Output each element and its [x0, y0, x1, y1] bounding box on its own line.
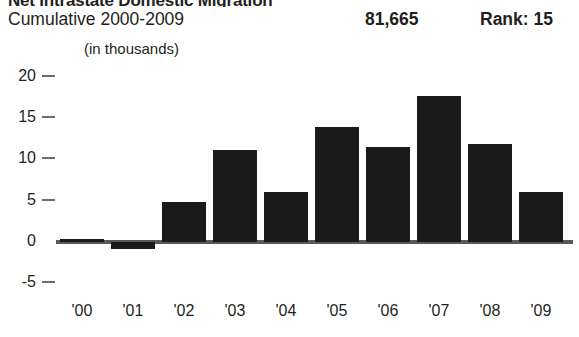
- bar-2004: [264, 192, 308, 242]
- bar-chart: 20 15 10 5 0 -5 '00 '01 '02 '03 '04 '05 …: [0, 0, 579, 337]
- x-axis-tick-2007: '07: [413, 302, 465, 320]
- x-axis-tick-2008: '08: [464, 302, 516, 320]
- y-axis-tick-label: 15: [0, 108, 36, 126]
- y-axis-tick-label: 5: [0, 191, 36, 209]
- y-axis-tick-label: -5: [0, 273, 36, 291]
- bar-2007: [417, 96, 461, 242]
- y-axis-tick-label: 10: [0, 149, 36, 167]
- y-axis-tick-mark: [42, 281, 55, 283]
- y-axis-tick-mark: [42, 75, 55, 77]
- y-axis-tick-mark: [42, 116, 55, 118]
- x-axis-tick-2005: '05: [311, 302, 363, 320]
- bar-2001: [111, 242, 155, 249]
- x-axis-tick-2000: '00: [56, 302, 108, 320]
- x-axis-tick-2003: '03: [209, 302, 261, 320]
- y-axis-tick-mark: [42, 157, 55, 159]
- bar-2003: [213, 150, 257, 242]
- y-axis-tick-label: 0: [0, 232, 36, 250]
- bar-2002: [162, 202, 206, 242]
- y-axis-tick-label: 20: [0, 67, 36, 85]
- bar-2005: [315, 127, 359, 242]
- y-axis-tick-mark: [42, 199, 55, 201]
- bar-2009: [519, 192, 563, 242]
- x-axis-tick-2006: '06: [362, 302, 414, 320]
- x-axis-tick-2004: '04: [260, 302, 312, 320]
- x-axis-tick-2001: '01: [107, 302, 159, 320]
- x-axis-tick-2002: '02: [158, 302, 210, 320]
- bar-2008: [468, 144, 512, 242]
- x-axis-tick-2009: '09: [515, 302, 567, 320]
- bar-2000: [60, 239, 104, 242]
- bar-2006: [366, 147, 410, 242]
